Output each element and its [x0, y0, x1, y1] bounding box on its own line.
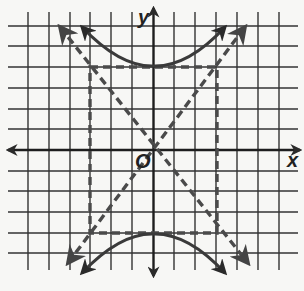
axes	[8, 8, 300, 276]
x-axis-label: x	[286, 149, 299, 171]
origin-label: O	[135, 150, 151, 172]
hyperbola-graph: y x O	[0, 0, 304, 291]
y-axis-label: y	[137, 6, 150, 28]
